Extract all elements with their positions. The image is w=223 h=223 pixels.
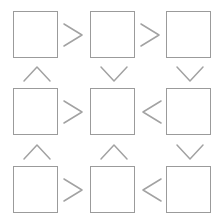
- chevron-down-icon: [175, 143, 205, 161]
- chevron-up-icon: [99, 143, 129, 161]
- square-node[interactable]: [166, 11, 211, 58]
- square-node[interactable]: [166, 88, 211, 135]
- chevron-right-icon: [62, 177, 84, 203]
- chevron-left-icon: [141, 99, 163, 125]
- square-node[interactable]: [13, 166, 58, 213]
- chevron-right-icon: [62, 99, 84, 125]
- grid-flow-diagram: [0, 0, 223, 223]
- chevron-up-icon: [22, 143, 52, 161]
- square-node[interactable]: [90, 166, 135, 213]
- chevron-down-icon: [175, 65, 205, 83]
- square-node[interactable]: [166, 166, 211, 213]
- square-node[interactable]: [13, 88, 58, 135]
- square-node[interactable]: [90, 88, 135, 135]
- chevron-right-icon: [62, 22, 84, 48]
- square-node[interactable]: [13, 11, 58, 58]
- chevron-down-icon: [99, 65, 129, 83]
- chevron-right-icon: [139, 22, 161, 48]
- chevron-left-icon: [141, 177, 163, 203]
- chevron-up-icon: [22, 65, 52, 83]
- square-node[interactable]: [90, 11, 135, 58]
